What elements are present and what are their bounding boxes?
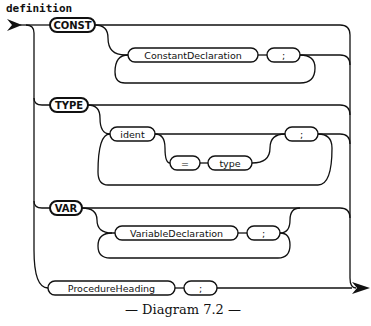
diagram-title: definition (6, 2, 72, 15)
svg-text:VAR: VAR (55, 203, 78, 214)
svg-text:VariableDeclaration: VariableDeclaration (130, 228, 223, 239)
svg-text:;: ; (282, 50, 285, 61)
keyword-type: TYPE (50, 98, 88, 112)
terminal-semicolon-var: ; (247, 226, 280, 240)
terminal-semicolon-const: ; (267, 48, 300, 62)
svg-text:;: ; (262, 228, 265, 239)
terminal-semicolon-proc: ; (184, 281, 217, 295)
keyword-const: CONST (50, 18, 95, 32)
svg-text:CONST: CONST (53, 20, 91, 31)
svg-text:=: = (181, 158, 189, 169)
nonterminal-variable-declaration: VariableDeclaration (115, 226, 238, 240)
syntax-diagram: definition (0, 0, 371, 326)
terminal-semicolon-type: ; (285, 127, 318, 141)
svg-text:;: ; (199, 283, 202, 294)
diagram-caption: — Diagram 7.2 — (125, 302, 241, 317)
terminal-equals: = (170, 156, 200, 170)
nonterminal-ident: ident (110, 127, 155, 141)
entry-arrow-icon (7, 19, 22, 31)
nonterminal-type: type (208, 156, 252, 170)
svg-text:ident: ident (120, 129, 145, 140)
nonterminal-procedure-heading: ProcedureHeading (48, 281, 175, 295)
svg-text:ProcedureHeading: ProcedureHeading (68, 283, 155, 294)
nonterminal-constant-declaration: ConstantDeclaration (128, 48, 258, 62)
svg-text:TYPE: TYPE (55, 100, 83, 111)
svg-text:ConstantDeclaration: ConstantDeclaration (144, 50, 241, 61)
svg-text:;: ; (300, 129, 303, 140)
keyword-var: VAR (50, 201, 82, 215)
svg-text:type: type (219, 158, 240, 169)
